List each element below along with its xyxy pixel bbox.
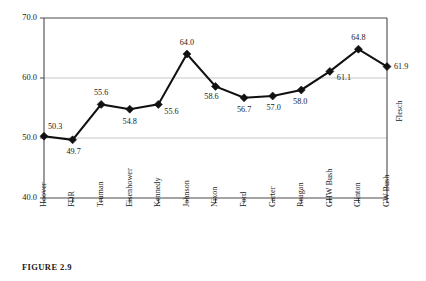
data-point-label: 58.6 xyxy=(204,92,218,101)
data-point-label: 54.8 xyxy=(123,117,137,126)
data-marker xyxy=(240,94,248,102)
x-axis-tick-label: GW Bush xyxy=(382,175,391,207)
data-point-label: 57.0 xyxy=(267,103,281,112)
series-label-flesch: Flesch xyxy=(395,100,404,121)
x-axis-tick-label: GHW Bush xyxy=(325,169,334,207)
series-axis-label: Flesch xyxy=(395,100,404,121)
y-axis-tick-label: 60.0 xyxy=(22,73,37,82)
data-point-label: 55.6 xyxy=(164,107,178,116)
y-axis-tick-label: 70.0 xyxy=(22,13,37,22)
data-marker xyxy=(154,100,162,108)
data-point-label: 64.8 xyxy=(351,33,365,42)
x-axis-tick-label: Kennedy xyxy=(153,177,162,207)
data-point-label: 50.3 xyxy=(48,122,62,131)
x-axis-tick-label: Hoover xyxy=(39,182,48,207)
figure-caption: FIGURE 2.9 xyxy=(22,262,72,272)
data-marker xyxy=(126,105,134,113)
data-point-label: 56.7 xyxy=(237,105,251,114)
x-axis-tick-label: Clinton xyxy=(353,182,362,207)
data-point-label: 55.6 xyxy=(94,88,108,97)
y-axis-tick-label: 40.0 xyxy=(22,193,37,202)
flesch-readability-line-chart: 70.060.050.040.0 HooverFDRTrumanEisenhow… xyxy=(0,0,426,281)
data-marker xyxy=(40,132,48,140)
data-marker xyxy=(269,92,277,100)
data-point-label: 58.0 xyxy=(293,97,307,106)
x-axis-tick-label: Ford xyxy=(239,192,248,207)
x-axis-tick-label: Reagan xyxy=(296,182,305,207)
data-point-label: 61.1 xyxy=(337,73,351,82)
data-point-label: 64.0 xyxy=(180,38,194,47)
x-axis-tick-label: Truman xyxy=(96,181,105,207)
x-axis-tick-label: Carter xyxy=(268,186,277,207)
x-axis-tick-label: FDR xyxy=(67,191,76,207)
x-axis-tick-label: Eisenhower xyxy=(125,168,134,207)
x-axis-tick-label: Nixon xyxy=(210,187,219,207)
y-axis-tick-label: 50.0 xyxy=(22,133,37,142)
x-axis-tick-label: Johnson xyxy=(182,180,191,207)
data-point-label: 49.7 xyxy=(66,147,80,156)
data-point-label: 61.9 xyxy=(394,62,408,71)
plot-frame xyxy=(44,18,387,198)
y-axis-tick-labels: 70.060.050.040.0 xyxy=(22,13,44,202)
x-axis-tick-labels: HooverFDRTrumanEisenhowerKennedyJohnsonN… xyxy=(39,168,391,207)
figure-container: 70.060.050.040.0 HooverFDRTrumanEisenhow… xyxy=(0,0,426,281)
